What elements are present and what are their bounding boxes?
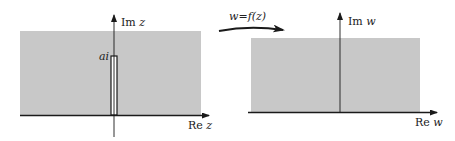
- z-real-axis-label: Re z: [188, 119, 212, 132]
- z-imag-axis-label: Im z: [121, 16, 145, 29]
- w-plane: Im w Re w: [248, 13, 443, 129]
- z-slit-label: ai: [99, 50, 109, 63]
- curved-arrow-icon: [219, 28, 283, 31]
- w-region-upper-half-plane: [251, 38, 420, 112]
- w-imag-axis-label: Im w: [348, 15, 376, 28]
- mapping-label: w=f(z): [229, 10, 266, 23]
- mapping-arrow: w=f(z): [219, 10, 283, 31]
- conformal-map-diagram: Im z ai Re z w=f(z) Im w Re w: [0, 0, 455, 141]
- z-plane: Im z ai Re z: [20, 15, 212, 137]
- w-real-axis-label: Re w: [415, 116, 443, 129]
